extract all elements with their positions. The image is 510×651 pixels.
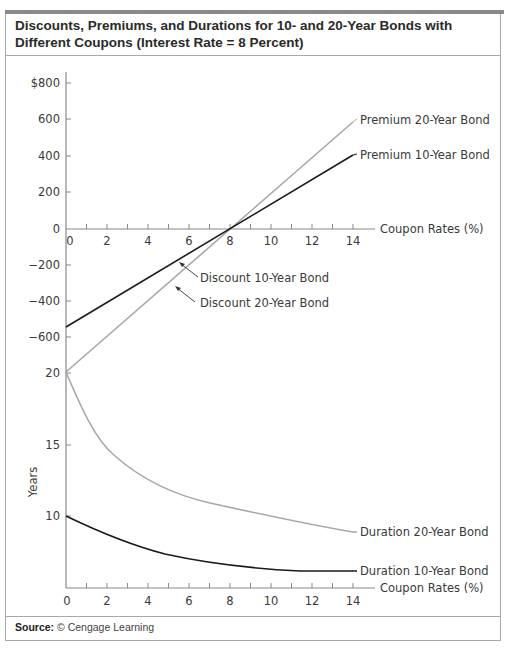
bottom-chart: 20 15 10 Years 0 2 4 6 8 10 12 14 Coupon… bbox=[26, 345, 489, 608]
x-tick-label: 12 bbox=[305, 594, 320, 608]
source-label: Source: bbox=[15, 621, 54, 633]
source-text: © Cengage Learning bbox=[57, 621, 154, 633]
x-tick-label: 2 bbox=[103, 594, 110, 608]
y-tick-label: $800 bbox=[31, 76, 60, 90]
x-tick-label: 14 bbox=[346, 594, 361, 608]
x-tick-label: 0 bbox=[63, 594, 70, 608]
y-tick-label: 15 bbox=[45, 438, 60, 452]
top-x-axis-label: Coupon Rates (%) bbox=[380, 222, 484, 236]
x-tick-label: 14 bbox=[346, 234, 361, 248]
discount-20yr-arrow bbox=[177, 288, 195, 302]
source-divider bbox=[5, 616, 501, 617]
x-tick-label: 12 bbox=[305, 234, 320, 248]
bottom-x-ticks bbox=[87, 583, 354, 588]
x-tick-label: 6 bbox=[185, 234, 192, 248]
x-tick-label: 4 bbox=[144, 594, 151, 608]
bottom-y-axis-label: Years bbox=[26, 467, 40, 498]
y-tick-label: −200 bbox=[28, 258, 60, 272]
top-y-ticks bbox=[66, 83, 71, 337]
discount-20yr-label: Discount 20-Year Bond bbox=[200, 296, 329, 310]
y-tick-label: 10 bbox=[45, 509, 60, 523]
premium-10yr-label: Premium 10-Year Bond bbox=[360, 148, 490, 162]
chart-canvas: $800 600 400 200 0 −200 −400 −600 0 2 4 … bbox=[0, 0, 510, 651]
premium-20yr-label: Premium 20-Year Bond bbox=[360, 113, 490, 127]
duration-10yr-label: Duration 10-Year Bond bbox=[360, 564, 489, 578]
x-tick-label: 0 bbox=[66, 234, 73, 248]
x-tick-label: 8 bbox=[226, 234, 233, 248]
duration-20yr-label: Duration 20-Year Bond bbox=[360, 525, 489, 539]
y-tick-label: 0 bbox=[53, 222, 60, 236]
x-tick-label: 10 bbox=[264, 234, 279, 248]
y-tick-label: −400 bbox=[28, 294, 60, 308]
y-tick-label: −600 bbox=[28, 330, 60, 344]
bottom-x-axis-label: Coupon Rates (%) bbox=[380, 581, 484, 595]
source-note: Source: © Cengage Learning bbox=[15, 621, 154, 633]
x-tick-label: 4 bbox=[144, 234, 151, 248]
duration-20yr-line bbox=[66, 372, 357, 532]
y-tick-label: 20 bbox=[45, 366, 60, 380]
y-tick-label: 400 bbox=[38, 149, 60, 163]
x-tick-label: 2 bbox=[103, 234, 110, 248]
y-tick-label: 200 bbox=[38, 185, 60, 199]
discount-10yr-label: Discount 10-Year Bond bbox=[200, 271, 329, 285]
top-x-ticks bbox=[87, 224, 354, 229]
x-tick-label: 6 bbox=[185, 594, 192, 608]
x-tick-label: 10 bbox=[264, 594, 279, 608]
top-chart: $800 600 400 200 0 −200 −400 −600 0 2 4 … bbox=[28, 72, 489, 372]
x-tick-label: 8 bbox=[226, 594, 233, 608]
y-tick-label: 600 bbox=[38, 112, 60, 126]
